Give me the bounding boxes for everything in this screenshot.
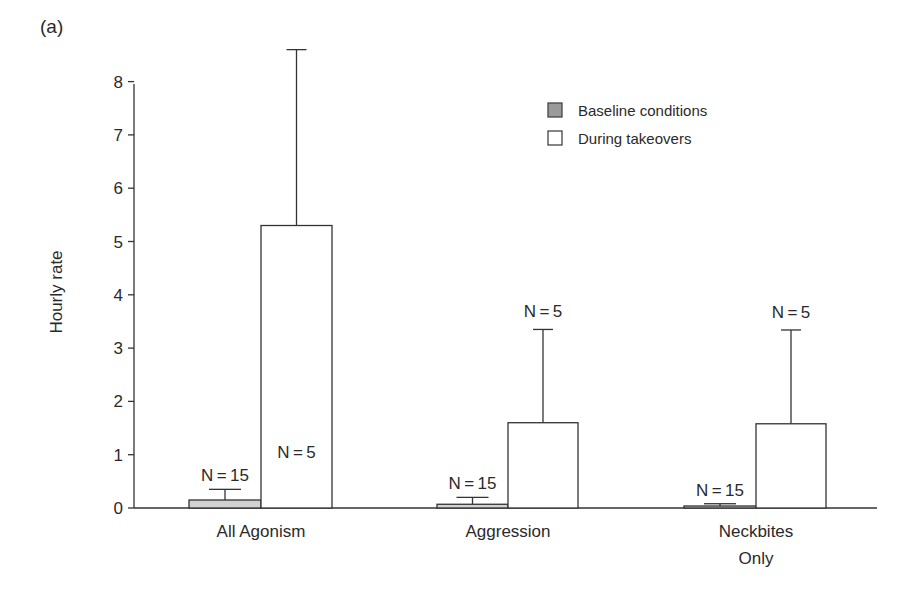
bar-baseline — [684, 506, 756, 508]
legend: Baseline conditionsDuring takeovers — [548, 102, 707, 147]
y-tick-label: 7 — [114, 126, 123, 145]
x-category-label: Aggression — [465, 522, 550, 541]
legend-swatch — [548, 131, 562, 145]
panel-label: (a) — [40, 16, 63, 37]
y-axis-label: Hourly rate — [47, 250, 66, 333]
n-label: N = 15 — [449, 474, 497, 493]
x-category-label: Neckbites — [719, 522, 794, 541]
bar-group: N = 15N = 5Aggression — [437, 302, 578, 541]
legend-label: Baseline conditions — [578, 102, 707, 119]
x-category-label: All Agonism — [217, 522, 306, 541]
bar-chart: (a) Hourly rate 012345678 N = 15N = 5All… — [0, 0, 922, 600]
y-tick-label: 5 — [114, 233, 123, 252]
n-label: N = 5 — [524, 302, 562, 321]
n-label: N = 5 — [772, 303, 810, 322]
y-tick-label: 0 — [114, 499, 123, 518]
n-label: N = 5 — [277, 443, 315, 462]
y-tick-label: 4 — [114, 286, 123, 305]
n-label: N = 15 — [696, 481, 744, 500]
y-tick-label: 3 — [114, 339, 123, 358]
x-category-label: Only — [739, 549, 774, 568]
y-tick-label: 1 — [114, 446, 123, 465]
legend-swatch — [548, 103, 562, 117]
y-axis: 012345678 — [114, 73, 134, 518]
bar-takeover — [508, 423, 578, 508]
legend-label: During takeovers — [578, 130, 691, 147]
bar-baseline — [437, 504, 508, 508]
y-tick-label: 8 — [114, 73, 123, 92]
bar-group: N = 15N = 5NeckbitesOnly — [684, 303, 826, 568]
bar-baseline — [189, 500, 261, 508]
bar-group: N = 15N = 5All Agonism — [189, 50, 332, 541]
bar-takeover — [756, 424, 826, 508]
n-label: N = 15 — [201, 466, 249, 485]
bar-takeover — [261, 226, 332, 508]
bars: N = 15N = 5All AgonismN = 15N = 5Aggress… — [189, 50, 826, 568]
y-tick-label: 6 — [114, 179, 123, 198]
y-tick-label: 2 — [114, 392, 123, 411]
